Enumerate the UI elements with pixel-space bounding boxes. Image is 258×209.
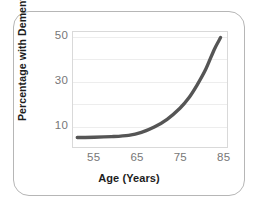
- dementia-curve: [73, 32, 227, 147]
- y-tick-label-10: 10: [46, 120, 68, 131]
- x-axis-title: Age (Years): [0, 172, 258, 184]
- x-tick-label-75: 75: [165, 151, 195, 164]
- chart-figure: Percentage with Dementia 103050 55657585…: [0, 0, 258, 209]
- x-tick-label-55: 55: [79, 151, 109, 164]
- x-tick-label-65: 65: [122, 151, 152, 164]
- x-axis-ticks: 55657585: [72, 151, 228, 167]
- y-axis-title: Percentage with Dementia: [16, 3, 28, 121]
- x-tick-label-85: 85: [209, 151, 239, 164]
- y-tick-label-50: 50: [46, 30, 68, 41]
- y-tick-label-30: 30: [46, 75, 68, 86]
- plot-area: [72, 31, 228, 148]
- y-axis-ticks: 103050: [42, 31, 68, 148]
